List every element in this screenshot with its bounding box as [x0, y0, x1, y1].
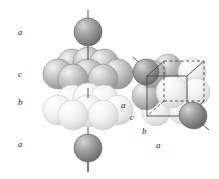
- right-layer-label-a-top: a: [121, 101, 126, 110]
- left-layer-label-a-bottom: a: [18, 140, 23, 149]
- right-panel-unit-cell-overlay: [132, 54, 210, 130]
- unit-cell-front-dark-sphere: [179, 102, 205, 128]
- close-packed-structure-figure: [0, 0, 219, 179]
- left-layer-label-a-top: a: [18, 28, 23, 37]
- right-layer-label-c: c: [130, 113, 134, 122]
- layer-a-bottom-sphere: [74, 134, 102, 162]
- right-layer-label-b: b: [142, 127, 147, 136]
- left-panel-exploded-layer-stack: [43, 10, 133, 172]
- layer-a-top-sphere: [74, 18, 102, 46]
- right-layer-label-a-bottom: a: [156, 141, 161, 150]
- left-layer-label-c: c: [18, 70, 22, 79]
- left-layer-label-b: b: [18, 98, 23, 107]
